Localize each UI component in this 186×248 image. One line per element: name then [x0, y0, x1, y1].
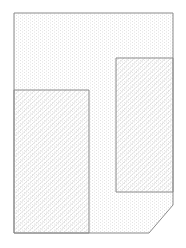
diagram-canvas — [0, 0, 186, 248]
cad-drawing — [0, 0, 186, 248]
right-hatched-block — [116, 58, 173, 192]
left-hatched-block — [14, 90, 89, 233]
